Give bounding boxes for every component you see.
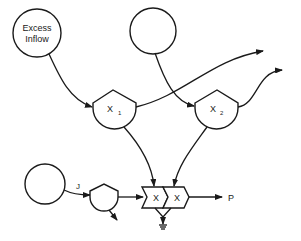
flow-x1-to-mult1: [124, 127, 154, 186]
flow-excess-to-x1: [49, 54, 92, 107]
x2-interaction: X 2: [195, 90, 238, 129]
j-valve-interaction: [90, 184, 118, 211]
x2-label: X: [210, 104, 216, 114]
x1-interaction: X 1: [93, 90, 136, 129]
top-source: [130, 8, 176, 54]
excess-inflow-label-2: Inflow: [25, 34, 49, 44]
mult1-label: X: [153, 193, 159, 203]
mult2-label: X: [174, 193, 180, 203]
excess-inflow-label-1: Excess: [22, 23, 52, 33]
flow-x2-out-right: [238, 70, 282, 107]
heat-sink: [155, 208, 171, 229]
energy-flow-diagram: Excess Inflow X 1 X 2 J: [0, 0, 301, 241]
x1-label: X: [107, 104, 113, 114]
excess-inflow-source: Excess Inflow: [13, 9, 61, 57]
flow-x1-out-right: [136, 51, 263, 107]
j-label: J: [76, 182, 80, 191]
flow-valve-out-down: [109, 210, 117, 220]
p-label: P: [228, 193, 234, 203]
flow-x2-to-mult2: [174, 127, 207, 186]
bottom-source: [25, 164, 65, 204]
